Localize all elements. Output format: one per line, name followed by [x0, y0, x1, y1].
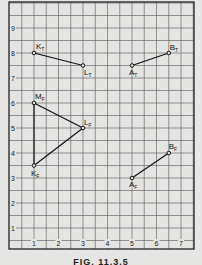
x-tick-label: 7: [179, 240, 183, 247]
y-tick-label: 5: [11, 125, 15, 132]
x-tick-label: 4: [106, 240, 110, 247]
y-tick-label: 4: [11, 150, 15, 157]
point-B_F: [167, 151, 171, 155]
y-tick-label: 9: [11, 25, 15, 32]
x-tick-label: 2: [57, 240, 61, 247]
x-tick-label: 1: [32, 240, 36, 247]
x-tick-label: 5: [130, 240, 134, 247]
y-tick-label: 8: [11, 50, 15, 57]
point-K_T: [32, 51, 36, 55]
point-K_F: [32, 164, 36, 168]
y-tick-label: 6: [11, 100, 15, 107]
grid-diagram: 1234567891234567KTLTATBTMFLFKFAFBF: [0, 0, 202, 265]
y-tick-label: 2: [11, 200, 15, 207]
y-tick-label: 1: [11, 225, 15, 232]
y-tick-label: 7: [11, 75, 15, 82]
x-tick-label: 3: [81, 240, 85, 247]
y-tick-label: 3: [11, 175, 15, 182]
x-tick-label: 6: [155, 240, 159, 247]
figure-caption: FIG. 11.3.5: [0, 257, 202, 265]
point-M_F: [32, 101, 36, 105]
